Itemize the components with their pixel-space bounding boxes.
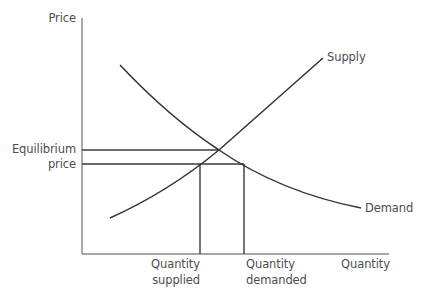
equilibrium-price-label-line2: price	[0, 157, 76, 171]
supply-curve	[110, 58, 323, 218]
x-axis-label: Quantity	[330, 257, 390, 271]
equilibrium-price-label-line1: Equilibrium	[0, 142, 76, 156]
quantity-demanded-label-line2: demanded	[246, 273, 307, 287]
y-axis-label: Price	[20, 11, 76, 25]
supply-curve-label: Supply	[327, 50, 366, 64]
demand-curve-label: Demand	[365, 201, 413, 215]
quantity-supplied-label-line1: Quantity	[140, 257, 200, 271]
demand-curve	[120, 65, 361, 208]
quantity-demanded-label-line1: Quantity	[246, 257, 295, 271]
quantity-supplied-label-line2: supplied	[140, 273, 200, 287]
